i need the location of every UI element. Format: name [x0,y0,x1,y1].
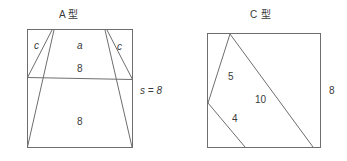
figure-a-label-c-left: c [34,41,39,51]
figure-c-label-five: 5 [228,72,234,82]
figure-c-side-5 [208,34,230,103]
figure-c-label-ten: 10 [255,95,266,105]
figure-a-left-diagonal-inner [28,30,55,147]
figure-a-title: A 型 [59,10,79,20]
figure-c-side-10 [230,34,313,147]
figure-a-label-eight-bottom: 8 [77,117,83,127]
figure-a-label-side: s = 8 [140,86,162,96]
diagram-canvas [0,0,347,161]
figure-c-lines [208,34,321,148]
geometry-diagram-screenshot: A 型 c a c 8 8 s = 8 C 型 5 10 4 8 [0,0,347,161]
figure-c-label-four: 4 [232,114,238,124]
figure-a-label-eight-mid: 8 [77,64,83,74]
figure-a-label-c-right: c [117,42,122,52]
figure-c-label-side: 8 [329,86,335,96]
figure-a-label-a-top: a [77,41,83,51]
figure-c-title: C 型 [250,10,271,20]
figure-c-side-4 [208,103,245,147]
